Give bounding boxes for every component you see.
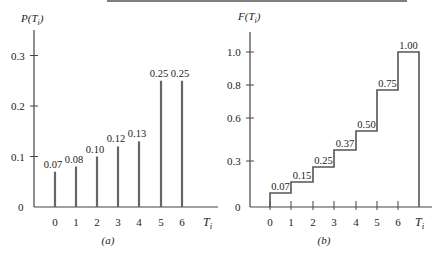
data-label: 0.75 [378,78,396,89]
x-axis-label: Ti [203,215,213,231]
chart-cdf: F(Ti)00.30.60.81.001234560.070.150.250.3… [227,10,432,247]
data-label: 0.07 [44,159,62,170]
data-label: 0.10 [86,144,104,155]
y-tick-label: 0.8 [227,79,241,91]
x-tick-label: 6 [179,216,185,228]
y-tick-label: 0.3 [227,155,241,167]
data-label: 0.13 [128,128,146,139]
x-tick-label: 5 [158,216,164,228]
chart-pmf: P(Ti)00.10.20.30.0700.0810.1020.1230.134… [11,12,218,247]
x-tick-label: 3 [115,216,121,228]
y-tick-label: 0.3 [11,50,25,62]
data-label: 1.00 [399,40,417,51]
panel-label: (b) [318,234,331,247]
y-tick-label: 0.1 [11,151,25,163]
x-tick-label: 5 [374,216,380,228]
data-label: 0.50 [357,119,375,130]
y-axis-label: F(Ti) [237,10,261,25]
data-label: 0.07 [271,181,289,192]
y-tick-label: 0 [235,201,241,213]
data-label: 0.08 [65,154,83,165]
x-tick-label: 4 [353,216,359,228]
figure: P(Ti)00.10.20.30.0700.0810.1020.1230.134… [0,0,438,254]
y-tick-label: 0.6 [227,112,241,124]
data-label: 0.37 [336,138,354,149]
x-tick-label: 4 [136,216,142,228]
x-tick-label: 2 [94,216,100,228]
x-tick-label: 2 [310,216,316,228]
x-tick-label: 0 [52,216,58,228]
data-label: 0.25 [171,68,189,79]
x-tick-label: 0 [267,216,273,228]
y-tick-label: 1.0 [227,46,241,58]
y-tick-label: 0.2 [11,100,25,112]
x-tick-label: 1 [73,216,79,228]
x-tick-label: 3 [331,216,337,228]
x-tick-label: 6 [395,216,401,228]
data-label: 0.15 [293,170,311,181]
y-tick-label: 0 [18,201,24,213]
panel-label: (a) [102,234,115,247]
step-line [270,52,419,207]
data-label: 0.25 [150,68,168,79]
y-axis-label: P(Ti) [20,12,44,27]
data-label: 0.25 [314,155,332,166]
data-label: 0.12 [107,133,125,144]
x-tick-label: 1 [288,216,294,228]
x-axis-label: Ti [415,215,425,231]
